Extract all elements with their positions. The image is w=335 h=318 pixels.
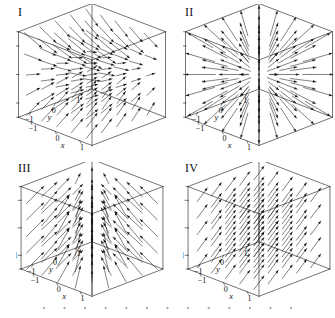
field-arrow: [197, 188, 207, 202]
field-arrow: [132, 67, 141, 70]
field-arrow: [132, 93, 141, 101]
field-arrow: [211, 199, 221, 213]
field-arrow: [24, 33, 42, 48]
field-arrow: [267, 66, 280, 71]
field-arrow: [27, 186, 44, 203]
cube-edge: [259, 269, 330, 296]
separator-dot: [228, 307, 230, 309]
field-arrow: [258, 45, 261, 58]
separator-dot: [187, 307, 189, 309]
field-arrow: [132, 82, 140, 89]
field-arrow: [279, 60, 297, 67]
field-arrow: [113, 45, 130, 58]
z-tick-label: −1: [183, 251, 185, 260]
field-arrow: [71, 89, 84, 93]
cube-edge: [92, 117, 166, 145]
field-arrow: [268, 259, 278, 273]
vector-field-panel-1: I −101z−101y−101x: [16, 4, 168, 154]
field-arrow: [132, 108, 141, 121]
field-arrow: [226, 254, 236, 268]
field-arrow: [42, 83, 55, 90]
x-tick-label: −1: [31, 276, 40, 285]
x-tick-label: −1: [196, 124, 205, 133]
separator-dot: [290, 307, 292, 309]
y-tick-label: −1: [192, 115, 201, 124]
field-arrow: [127, 215, 143, 229]
x-tick-label: −1: [29, 124, 38, 133]
field-arrow: [279, 82, 297, 89]
field-arrow: [72, 67, 83, 70]
x-axis-label: x: [61, 291, 66, 301]
field-arrow: [311, 237, 321, 251]
x-tick-label: 0: [222, 134, 226, 143]
field-arrow: [240, 270, 250, 284]
field-arrow: [117, 102, 126, 115]
field-arrow: [239, 82, 249, 90]
field-arrow: [311, 204, 321, 218]
field-arrow: [56, 73, 68, 76]
x-tick-label: −1: [198, 276, 207, 285]
panel-3-plot: −101z−101y−101x: [16, 162, 168, 302]
field-arrow: [75, 173, 80, 183]
field-arrow: [27, 219, 44, 236]
field-arrow: [267, 78, 280, 83]
field-arrow: [221, 82, 239, 89]
field-arrow: [282, 265, 292, 279]
field-arrow: [117, 73, 127, 76]
separator-dot: [105, 307, 107, 309]
field-arrow: [115, 21, 128, 37]
field-arrow: [127, 199, 143, 213]
field-arrow: [57, 62, 69, 65]
field-arrow: [297, 259, 307, 273]
field-arrow: [238, 66, 251, 71]
z-tick-label: −1: [16, 251, 18, 260]
field-arrow: [238, 78, 251, 83]
field-arrow: [268, 59, 278, 67]
x-axis-label: x: [228, 291, 233, 301]
field-arrow: [297, 248, 307, 262]
field-arrow: [101, 191, 111, 209]
field-arrow: [71, 36, 84, 44]
field-arrow: [101, 37, 113, 45]
field-arrow: [268, 82, 278, 90]
field-arrow: [304, 53, 333, 62]
field-arrow: [304, 87, 333, 96]
y-axis-label: y: [214, 112, 219, 122]
field-arrow: [188, 101, 213, 115]
field-arrow: [297, 182, 307, 196]
separator-dot: [269, 307, 271, 309]
separator-dot: [166, 307, 168, 309]
field-arrow: [240, 113, 248, 138]
field-arrow: [57, 77, 69, 84]
field-arrow: [240, 172, 250, 186]
field-arrow: [102, 119, 112, 133]
field-arrow: [73, 191, 83, 209]
field-arrow: [197, 254, 207, 268]
field-arrow: [26, 73, 40, 76]
field-arrow: [140, 252, 157, 269]
field-arrow: [101, 15, 113, 32]
field-arrow: [197, 237, 207, 251]
field-arrow: [204, 25, 225, 44]
vector-field-panel-3: III −101z−101y−101x: [16, 162, 168, 302]
field-arrow: [27, 203, 44, 220]
field-arrow: [240, 73, 248, 76]
field-arrow: [131, 78, 140, 81]
separator-dot: [43, 307, 45, 309]
field-arrow: [116, 84, 126, 88]
field-arrow: [72, 108, 83, 121]
field-arrow: [72, 56, 82, 59]
y-tick-label: −1: [194, 267, 203, 276]
field-arrow: [42, 215, 58, 229]
field-arrow: [188, 33, 213, 47]
field-arrow: [221, 60, 239, 67]
field-arrow: [211, 182, 221, 196]
field-arrow: [239, 59, 249, 67]
field-arrow: [292, 25, 313, 44]
field-arrow: [130, 27, 143, 42]
separator-dot: [249, 307, 251, 309]
field-arrow: [101, 78, 112, 81]
field-arrow: [132, 97, 140, 109]
field-arrow: [115, 178, 126, 190]
field-arrow: [258, 82, 261, 90]
